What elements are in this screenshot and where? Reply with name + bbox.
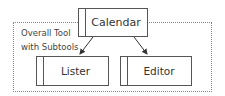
node-side-bar	[85, 9, 86, 36]
edge-calendar-editor	[134, 37, 147, 54]
node-label: Lister	[37, 65, 108, 77]
node-side-bar	[43, 57, 44, 85]
node-label: Calendar	[79, 16, 147, 29]
node-label: Editor	[121, 65, 191, 77]
edge-calendar-lister	[80, 37, 93, 54]
node-lister: Lister	[36, 56, 109, 86]
node-editor: Editor	[120, 56, 192, 86]
node-calendar: Calendar	[78, 8, 148, 37]
node-side-bar	[127, 57, 128, 85]
